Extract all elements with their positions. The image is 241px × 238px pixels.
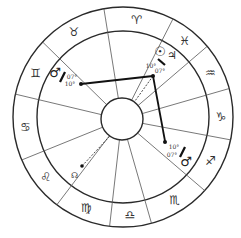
mars-left-deg-b: 10° [65, 80, 76, 87]
node-point [80, 164, 84, 168]
sun-glyph: ☉ [154, 44, 166, 59]
sign-scorpio: ♏ [170, 193, 181, 207]
house-cusp-9 [57, 136, 110, 205]
house-cusp-10 [22, 127, 103, 160]
house-cusp-1 [104, 9, 118, 99]
sign-cancer: ♋ [20, 120, 31, 134]
mars-left-point [79, 82, 83, 86]
sign-pisces: ♓ [179, 34, 190, 48]
sign-gemini: ♊ [30, 66, 41, 80]
mars-right-deg-b: 07° [167, 151, 178, 158]
sign-sagittarius: ♐ [205, 154, 216, 168]
sign-aquarius: ♒ [205, 66, 216, 80]
sun-jupiter-marker [158, 59, 165, 65]
astrology-wheel: ♈♓♒♑♐♏♎♍♌♋♊♉ ♂ 07° 10° ☉ ♃ 10° 07° 10° 0… [0, 0, 241, 238]
mars-right-point [163, 140, 167, 144]
house-cusp-5 [143, 123, 231, 140]
mars-left-deg-a: 07° [67, 73, 78, 80]
sign-leo: ♌ [40, 170, 51, 184]
mars-right-deg-a: 10° [169, 143, 180, 150]
sun-jupiter-point [151, 74, 155, 78]
aspect-line-sun-mars [153, 76, 165, 141]
sign-taurus: ♉ [69, 25, 80, 39]
sun-jupiter-deg-b: 07° [155, 67, 166, 74]
sign-libra: ♎ [124, 208, 135, 222]
mars-left-glyph: ♂ [49, 65, 61, 80]
house-cusp-11 [15, 94, 101, 115]
mars-right-glyph: ♂ [180, 154, 192, 169]
jupiter-glyph: ♃ [167, 49, 177, 62]
sign-virgo: ♍ [81, 201, 92, 215]
center-hub [101, 98, 143, 140]
house-cusp-8 [110, 140, 120, 226]
node-glyph: ☊ [71, 171, 78, 180]
sign-capricorn: ♑ [216, 110, 227, 124]
sign-aries: ♈ [131, 13, 142, 27]
